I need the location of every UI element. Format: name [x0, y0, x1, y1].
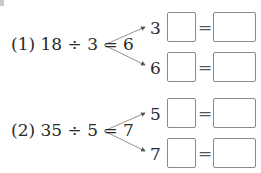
answer-box-product[interactable]: [213, 138, 256, 168]
answer-box-multiplier[interactable]: [167, 138, 196, 168]
answer-box-multiplier[interactable]: [167, 12, 196, 42]
answer-box-product[interactable]: [213, 12, 256, 42]
equals-sign: =: [198, 57, 212, 77]
answer-box-product[interactable]: [213, 52, 256, 82]
equals-sign: =: [198, 17, 212, 37]
problem-1: (1) 18 ÷ 3 = 6 3 × = 6 × =: [0, 0, 261, 86]
problem-1-row-1: 3 × =: [0, 12, 261, 44]
answer-box-product[interactable]: [213, 98, 256, 128]
problem-1-row-2: 6 × =: [0, 52, 261, 84]
problem-2-row-2: 7 × =: [0, 138, 261, 170]
equals-sign: =: [198, 143, 212, 163]
answer-box-multiplier[interactable]: [167, 52, 196, 82]
problem-2-row-1: 5 × =: [0, 98, 261, 130]
problem-2: (2) 35 ÷ 5 = 7 5 × = 7 × =: [0, 87, 261, 173]
answer-box-multiplier[interactable]: [167, 98, 196, 128]
equals-sign: =: [198, 103, 212, 123]
